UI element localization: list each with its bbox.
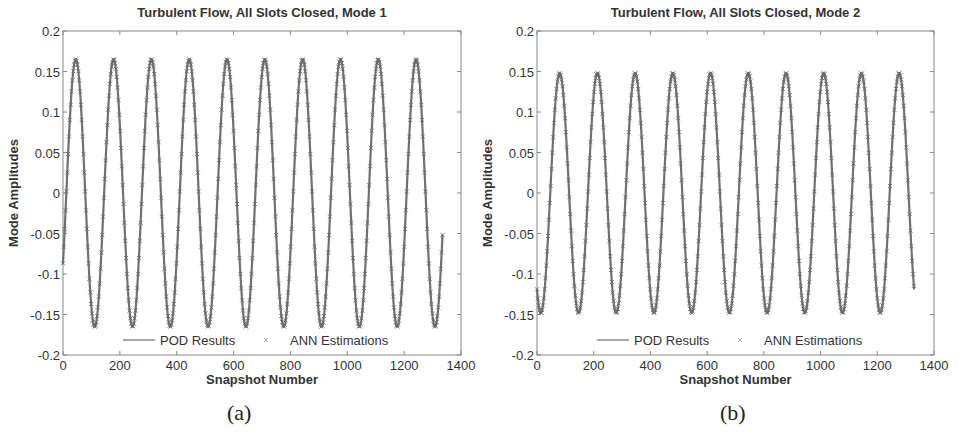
legend-label-ann: ANN Estimations xyxy=(764,333,863,348)
chart-panel-a: Turbulent Flow, All Slots Closed, Mode 1… xyxy=(0,0,480,441)
y-tick-label: -0.2 xyxy=(38,348,60,363)
x-tick-label: 1400 xyxy=(447,358,476,373)
x-tick-label: 800 xyxy=(753,358,775,373)
x-tick-label: 600 xyxy=(223,358,245,373)
x-tick-label: 0 xyxy=(59,358,66,373)
pod-results-line xyxy=(537,73,914,313)
x-tick-label: 0 xyxy=(533,358,540,373)
legend: POD ResultsANN Estimations xyxy=(119,331,419,349)
x-tick-label: 600 xyxy=(696,358,718,373)
y-tick-label: 0.15 xyxy=(35,65,60,80)
legend-label-pod: POD Results xyxy=(634,333,710,348)
y-tick-label: 0.15 xyxy=(509,65,534,80)
y-tick-label: 0.1 xyxy=(516,105,534,120)
y-tick-label: -0.05 xyxy=(504,227,534,242)
y-tick-label: -0.15 xyxy=(30,308,60,323)
y-tick-label: 0.1 xyxy=(42,105,60,120)
chart-title: Turbulent Flow, All Slots Closed, Mode 2 xyxy=(611,5,860,20)
y-tick-label: -0.1 xyxy=(512,267,534,282)
y-tick-label: 0.2 xyxy=(42,24,60,39)
x-tick-label: 400 xyxy=(166,358,188,373)
x-axis-label: Snapshot Number xyxy=(680,372,792,387)
legend: POD ResultsANN Estimations xyxy=(593,331,893,349)
x-tick-label: 1400 xyxy=(920,358,949,373)
chart-panel-b: Turbulent Flow, All Slots Closed, Mode 2… xyxy=(474,0,963,441)
chart-b-svg: Turbulent Flow, All Slots Closed, Mode 2… xyxy=(474,0,963,441)
chart-title: Turbulent Flow, All Slots Closed, Mode 1 xyxy=(137,5,386,20)
y-tick-label: 0 xyxy=(527,186,534,201)
plot-area xyxy=(537,31,934,355)
x-axis-label: Snapshot Number xyxy=(206,372,318,387)
x-tick-label: 400 xyxy=(640,358,662,373)
panel-caption-b: (b) xyxy=(720,400,746,426)
x-tick-label: 1200 xyxy=(390,358,419,373)
x-tick-label: 1200 xyxy=(863,358,892,373)
x-tick-label: 800 xyxy=(280,358,302,373)
y-axis-label: Mode Amplitudes xyxy=(6,139,21,247)
y-tick-label: 0 xyxy=(53,186,60,201)
y-tick-label: -0.05 xyxy=(30,227,60,242)
x-tick-label: 200 xyxy=(109,358,131,373)
y-tick-label: -0.2 xyxy=(512,348,534,363)
y-tick-label: 0.05 xyxy=(509,146,534,161)
legend-label-ann: ANN Estimations xyxy=(290,333,389,348)
y-tick-label: -0.15 xyxy=(504,308,534,323)
y-tick-label: 0.05 xyxy=(35,146,60,161)
x-tick-label: 200 xyxy=(583,358,605,373)
x-tick-label: 1000 xyxy=(333,358,362,373)
x-tick-label: 1000 xyxy=(806,358,835,373)
y-tick-label: 0.2 xyxy=(516,24,534,39)
legend-label-pod: POD Results xyxy=(160,333,236,348)
panel-caption-a: (a) xyxy=(227,400,251,426)
chart-a-svg: Turbulent Flow, All Slots Closed, Mode 1… xyxy=(0,0,480,441)
y-tick-label: -0.1 xyxy=(38,267,60,282)
y-axis-label: Mode Amplitudes xyxy=(480,139,495,247)
